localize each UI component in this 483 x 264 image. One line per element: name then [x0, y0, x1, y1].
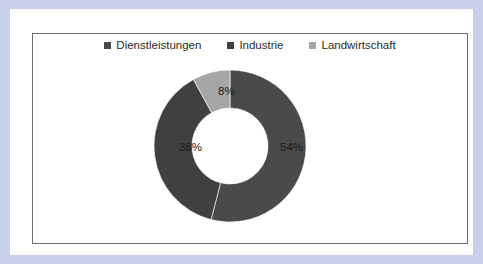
data-label-dienstleistungen: 54%	[280, 142, 303, 154]
chart-frame: Dienstleistungen Industrie Landwirtschaf…	[32, 33, 468, 244]
plot-area: 8% 54% 38%	[33, 34, 469, 243]
page-background: Dienstleistungen Industrie Landwirtschaf…	[0, 0, 483, 264]
data-label-industrie: 38%	[179, 142, 202, 154]
data-label-landwirtschaft: 8%	[218, 86, 235, 98]
page-sheet: Dienstleistungen Industrie Landwirtschaf…	[10, 9, 473, 255]
